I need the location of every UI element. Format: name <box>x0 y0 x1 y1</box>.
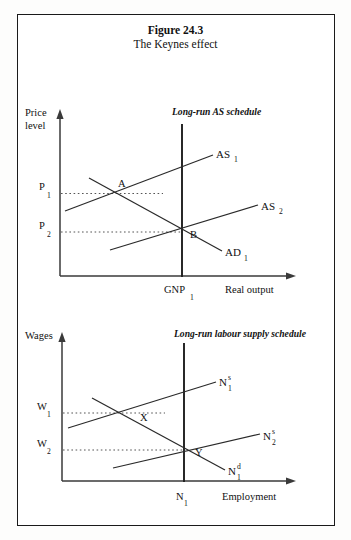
goods-ytick-p1: P <box>39 181 45 192</box>
labour-xtick-n1: N <box>176 491 184 502</box>
labour-ytick-w1: W <box>37 401 47 412</box>
labour-ytick-w2: W <box>37 438 47 449</box>
goods-xtick-gnp1: GNP <box>164 284 185 295</box>
labour-curve-n1d <box>92 398 225 470</box>
chart-labour-market: Wages Long-run labour supply schedule N … <box>25 328 307 508</box>
figure-number: Figure 24.3 <box>148 24 204 37</box>
labour-x-axis-label: Employment <box>222 491 276 502</box>
goods-curve-as1 <box>65 155 213 211</box>
goods-curve-as2 <box>110 205 258 250</box>
goods-y-axis-arrow <box>56 109 63 119</box>
labour-point-y: Y <box>195 447 203 458</box>
labour-curve-n2s-sub: 2 <box>272 438 276 447</box>
goods-x-axis-label: Real output <box>225 284 274 295</box>
goods-curve-as1-sub: 1 <box>234 155 238 164</box>
goods-curve-ad1-sub: 1 <box>244 254 248 263</box>
goods-curve-as2-sub: 2 <box>279 207 283 216</box>
goods-ytick-p1-sub: 1 <box>47 191 51 200</box>
figure-page: Figure 24.3 The Keynes effect Price leve… <box>0 0 351 540</box>
labour-y-axis-arrow <box>58 332 65 342</box>
labour-x-axis-arrow <box>286 477 296 484</box>
labour-long-run-supply-note: Long-run labour supply schedule <box>173 328 307 339</box>
labour-curve-n1d-label: N <box>228 465 236 477</box>
goods-curve-ad1-label: AD <box>225 246 241 258</box>
chart-goods-market: Price level Long-run AS schedule AS 1 AS… <box>25 106 296 302</box>
labour-y-axis-label: Wages <box>25 330 53 341</box>
goods-x-axis-arrow <box>286 272 296 279</box>
goods-ytick-p2-sub: 2 <box>47 230 51 239</box>
labour-xtick-n1-sub: 1 <box>184 499 188 508</box>
goods-long-run-as-note: Long-run AS schedule <box>171 106 262 117</box>
labour-curve-n1d-sub: 1 <box>237 473 241 482</box>
labour-curve-n2s-label: N <box>263 430 271 442</box>
goods-point-b: B <box>190 229 197 240</box>
goods-curve-ad1 <box>89 178 222 251</box>
labour-curve-n1s-label: N <box>219 376 227 388</box>
labour-curve-n2s-sup: s <box>272 427 275 436</box>
labour-ytick-w2-sub: 2 <box>47 447 51 456</box>
goods-curve-as1-label: AS <box>216 148 230 160</box>
goods-point-a: A <box>118 178 126 189</box>
figure-caption: The Keynes effect <box>133 38 218 51</box>
figure-svg: Figure 24.3 The Keynes effect Price leve… <box>0 0 351 540</box>
labour-point-x: X <box>140 412 148 423</box>
labour-curve-n1d-sup: d <box>237 462 241 471</box>
labour-ytick-w1-sub: 1 <box>47 410 51 419</box>
goods-y-axis-label-line1: Price <box>25 107 47 118</box>
goods-ytick-p2: P <box>39 220 45 231</box>
labour-curve-n1s-sup: s <box>228 373 231 382</box>
goods-y-axis-label-line2: level <box>25 120 45 131</box>
goods-curve-as2-label: AS <box>261 200 275 212</box>
goods-xtick-gnp1-sub: 1 <box>190 293 194 302</box>
labour-curve-n1s-sub: 1 <box>228 384 232 393</box>
